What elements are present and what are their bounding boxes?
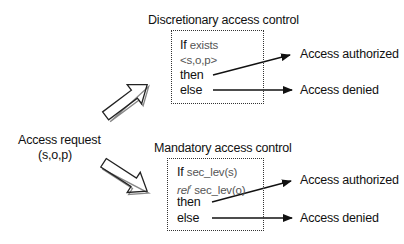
hollow-arrow-to-mac [97, 153, 154, 203]
mac-condition-expr: sec_lev(s) [187, 166, 237, 178]
mac-access-authorized: Access authorized [300, 173, 399, 187]
dac-access-denied: Access denied [300, 83, 379, 97]
access-request-label: Access request [18, 133, 101, 147]
mac-else: else [177, 211, 199, 225]
mac-if-keyword: If [177, 165, 184, 179]
dac-condition-expr: exists [190, 39, 218, 51]
mac-access-denied: Access denied [300, 211, 379, 225]
mac-then: then [177, 195, 201, 209]
dac-condition-tuple: <s,o,p> [180, 53, 217, 67]
dac-if-keyword: If [180, 38, 187, 52]
dac-title: Discretionary access control [148, 13, 299, 27]
hollow-arrow-to-dac [98, 75, 155, 127]
dac-then: then [180, 68, 204, 82]
dac-access-authorized: Access authorized [300, 47, 399, 61]
mac-condition: If sec_lev(s) [177, 165, 237, 179]
dac-condition: If exists [180, 38, 218, 52]
access-request-tuple: (s,o,p) [38, 148, 72, 162]
mac-title: Mandatory access control [154, 141, 292, 155]
dac-else: else [180, 83, 202, 97]
